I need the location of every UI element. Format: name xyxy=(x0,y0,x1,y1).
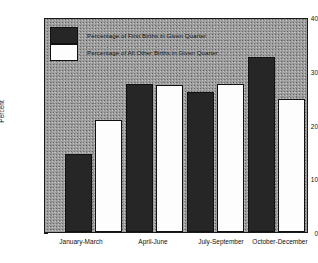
bar-other-births-april-june xyxy=(156,85,183,232)
x-tick-label-october-december: October-December xyxy=(243,238,317,245)
legend-item-other-births: Percentage of All Other Births in Given … xyxy=(50,44,218,61)
bar-first-births-april-june xyxy=(126,84,153,232)
x-tick-label-january-march: January-March xyxy=(44,238,118,245)
bar-first-births-january-march xyxy=(65,154,92,232)
bar-first-births-october-december xyxy=(248,57,275,232)
y-axis-label: Percent xyxy=(0,100,5,122)
legend-swatch-other-births xyxy=(50,44,78,61)
bar-other-births-july-september xyxy=(217,84,244,232)
bar-other-births-january-march xyxy=(95,120,122,232)
y-tick-mark-0 xyxy=(44,233,48,234)
legend-swatch-first-births xyxy=(50,27,78,44)
legend-item-first-births: Percentage of First Births in Given Quar… xyxy=(50,27,206,44)
plot-area: Percentage of First Births in Given Quar… xyxy=(44,18,308,233)
legend-label-other-births: Percentage of All Other Births in Given … xyxy=(87,49,218,56)
x-tick-label-april-june: April-June xyxy=(117,238,189,245)
legend-label-first-births: Percentage of First Births in Given Quar… xyxy=(87,32,206,39)
bar-first-births-july-september xyxy=(187,92,214,232)
bar-other-births-october-december xyxy=(278,99,305,232)
chart-container: Percent 40 30 20 10 0 Percentage of Firs… xyxy=(0,0,318,263)
